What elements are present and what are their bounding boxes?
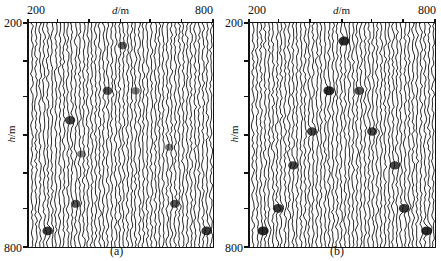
x-axis-unit: /m [118, 4, 130, 16]
x-axis-tick [149, 19, 151, 23]
x-axis-tick [181, 19, 183, 23]
y-axis-tick [244, 246, 248, 248]
y-axis-min-label: 200 [225, 17, 243, 29]
y-axis-var: h [228, 137, 240, 143]
y-axis-tick [23, 134, 27, 136]
y-axis-tick [244, 134, 248, 136]
panel-a: 200 d/m 800 200 h/m 800 (a) [0, 0, 220, 261]
wiggle-traces-b [250, 23, 436, 248]
y-axis-tick [23, 208, 27, 210]
y-axis-tick [23, 60, 27, 62]
y-axis-unit: /m [228, 125, 240, 137]
x-axis-tick [120, 19, 122, 23]
x-axis-tick [309, 19, 311, 23]
y-axis-tick [244, 172, 248, 174]
x-axis-title: d/m [112, 4, 129, 16]
x-axis-tick [341, 19, 343, 23]
y-axis-tick [244, 208, 248, 210]
y-axis-title: h/m [228, 125, 240, 142]
panel-caption-a: (a) [110, 244, 123, 259]
y-axis-tick [23, 22, 27, 24]
x-axis-title: d/m [333, 4, 350, 16]
x-axis-unit: /m [339, 4, 351, 16]
x-axis-max-label: 800 [195, 4, 213, 16]
seismic-section-a [27, 22, 214, 248]
wiggle-traces-a [29, 23, 214, 248]
x-axis-tick [27, 19, 29, 23]
x-axis-tick [248, 19, 250, 23]
x-axis-min-label: 200 [248, 4, 266, 16]
y-axis-tick [244, 96, 248, 98]
y-axis-tick [23, 246, 27, 248]
y-axis-min-label: 200 [4, 17, 22, 29]
seismic-section-b [248, 22, 436, 248]
y-axis-unit: /m [5, 125, 17, 137]
y-axis-max-label: 800 [225, 242, 243, 254]
panel-caption-b: (b) [330, 244, 344, 259]
y-axis-title: h/m [5, 125, 17, 142]
x-axis-tick [371, 19, 373, 23]
x-axis-tick [278, 19, 280, 23]
y-axis-var: h [5, 137, 17, 143]
x-axis-tick [434, 19, 436, 23]
x-axis-max-label: 800 [418, 4, 436, 16]
y-axis-tick [23, 172, 27, 174]
y-axis-max-label: 800 [4, 242, 22, 254]
y-axis-tick [244, 22, 248, 24]
y-axis-tick [244, 60, 248, 62]
x-axis-min-label: 200 [27, 4, 45, 16]
panel-b: 200 d/m 800 200 h/m 800 (b) [220, 0, 441, 261]
x-axis-tick [57, 19, 59, 23]
y-axis-tick [23, 96, 27, 98]
x-axis-tick [402, 19, 404, 23]
x-axis-tick [212, 19, 214, 23]
x-axis-tick [88, 19, 90, 23]
